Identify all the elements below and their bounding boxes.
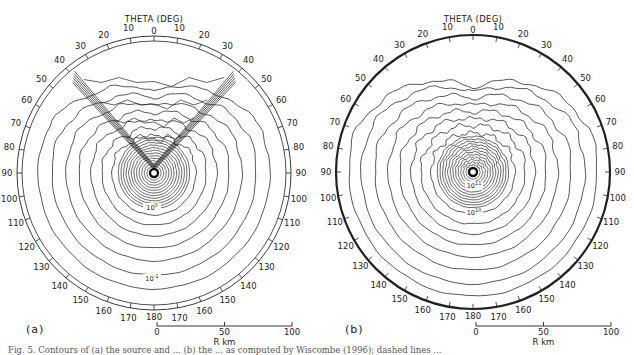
theta-label-left: 100	[320, 193, 336, 203]
panel-label: (a)	[26, 323, 44, 336]
theta-label-left: 90	[321, 167, 332, 177]
source-point	[469, 168, 477, 176]
panel-b: THETA (DEG)10203040506070809010011012013…	[320, 14, 626, 347]
theta-label-left: 120	[19, 242, 35, 252]
theta-label-left: 30	[75, 41, 86, 51]
theta-label-right: 50	[261, 74, 272, 84]
theta-label-right: 100	[291, 194, 307, 204]
theta-label-right: 60	[595, 94, 606, 104]
theta-label-right: 50	[580, 73, 591, 83]
theta-label-right: 120	[273, 242, 289, 252]
source-point	[150, 169, 158, 177]
theta-label-left: 90	[2, 168, 13, 178]
theta-label-right: 160	[196, 306, 212, 316]
theta-label-left: 170	[439, 312, 455, 322]
theta-label-left: 110	[327, 217, 343, 227]
theta-label-right: 90	[296, 168, 307, 178]
theta-label-left: 50	[36, 74, 47, 84]
scale-bar: 050100R km	[473, 322, 619, 347]
theta-label-left: 20	[98, 30, 109, 40]
theta-label-left: 130	[33, 262, 49, 272]
theta-label-left: 100	[1, 194, 17, 204]
theta-label-right: 80	[612, 141, 623, 151]
theta-label-left: 140	[370, 280, 386, 290]
theta-label-bottom: 180	[146, 312, 162, 322]
theta-label-left: 60	[21, 95, 32, 105]
theta-label-right: 80	[293, 142, 304, 152]
panel-a: THETA (DEG)10203040506070809010011012013…	[1, 14, 307, 347]
panel-label: (b)	[345, 323, 364, 336]
theta-label-left: 40	[54, 55, 65, 65]
theta-label-right: 170	[171, 313, 187, 323]
theta-label-left: 50	[355, 73, 366, 83]
theta-label-right: 60	[276, 95, 287, 105]
theta-label-top: 0	[470, 25, 475, 35]
theta-label-left: 130	[352, 261, 368, 271]
figure-caption: Fig. 5. Contours of (a) the source and .…	[8, 345, 628, 355]
theta-label-right: 40	[562, 54, 573, 64]
theta-label-left: 160	[415, 305, 431, 315]
theta-label-right: 10	[174, 23, 185, 33]
theta-label-right: 110	[603, 217, 619, 227]
theta-label-left: 80	[323, 141, 334, 151]
theta-label-left: 20	[417, 29, 428, 39]
theta-label-left: 140	[51, 281, 67, 291]
theta-label-right: 150	[538, 294, 554, 304]
theta-label-left: 150	[72, 295, 88, 305]
theta-label-left: 170	[120, 313, 136, 323]
theta-label-right: 30	[222, 41, 233, 51]
theta-label-left: 10	[123, 23, 134, 33]
theta-label-right: 90	[615, 167, 626, 177]
contour-lines	[38, 85, 271, 290]
theta-label-right: 40	[243, 55, 254, 65]
theta-label-right: 120	[592, 241, 608, 251]
scale-tick-label: 50	[219, 327, 230, 337]
theta-label-right: 30	[541, 40, 552, 50]
theta-label-right: 10	[493, 22, 504, 32]
theta-label-right: 130	[258, 262, 274, 272]
theta-label-left: 60	[340, 94, 351, 104]
scale-bar: 050100R km	[154, 322, 300, 347]
theta-label-right: 140	[240, 281, 256, 291]
theta-label-bottom: 180	[465, 311, 481, 321]
theta-label-left: 70	[10, 118, 21, 128]
scale-tick-label: 100	[603, 327, 619, 337]
theta-label-right: 170	[490, 312, 506, 322]
theta-label-right: 20	[199, 30, 210, 40]
scale-tick-label: 100	[284, 327, 300, 337]
theta-label-left: 150	[391, 294, 407, 304]
theta-label-left: 80	[4, 142, 15, 152]
theta-label-right: 100	[610, 193, 626, 203]
theta-label-right: 150	[219, 295, 235, 305]
theta-label-right: 110	[284, 218, 300, 228]
scale-tick-label: 0	[473, 327, 478, 337]
theta-label-left: 30	[394, 40, 405, 50]
theta-label-right: 130	[577, 261, 593, 271]
theta-label-right: 20	[518, 29, 529, 39]
theta-label-left: 70	[329, 117, 340, 127]
theta-label-left: 160	[96, 306, 112, 316]
theta-label-left: 110	[8, 218, 24, 228]
theta-label-right: 70	[606, 117, 617, 127]
scale-tick-label: 0	[154, 327, 159, 337]
theta-label-left: 40	[373, 54, 384, 64]
theta-label-right: 160	[515, 305, 531, 315]
theta-label-top: 0	[151, 26, 156, 36]
theta-label-right: 140	[559, 280, 575, 290]
scale-tick-label: 50	[538, 327, 549, 337]
theta-label-right: 70	[287, 118, 298, 128]
theta-label-left: 120	[338, 241, 354, 251]
theta-label-left: 10	[442, 22, 453, 32]
